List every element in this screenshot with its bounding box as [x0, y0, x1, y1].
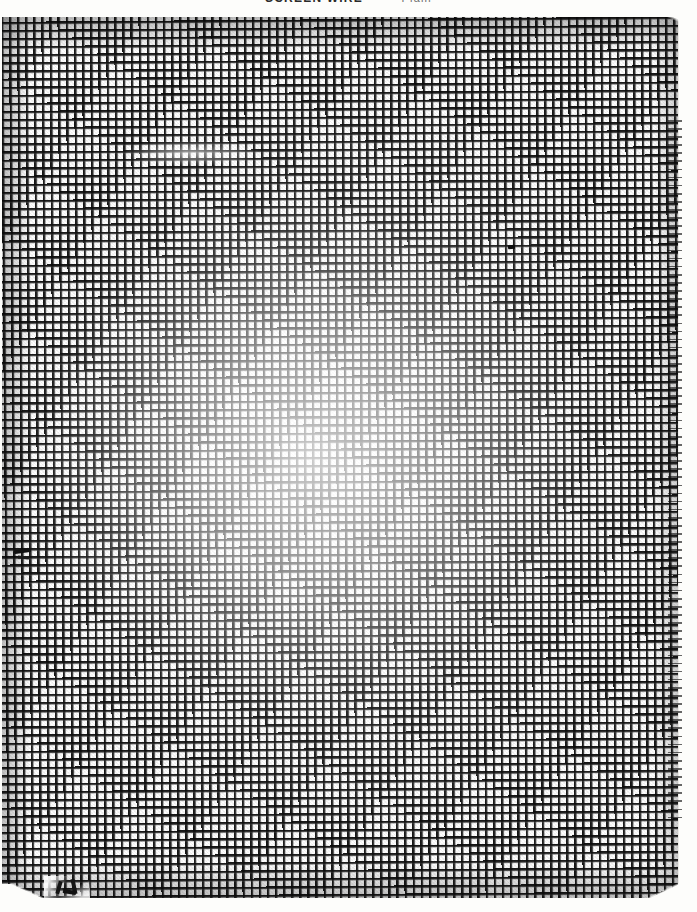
halftone-grain-overlay — [2, 17, 678, 898]
figure-caption: SCREEN WIRE Plain — [0, 0, 697, 5]
figure-caption-strip: SCREEN WIRE Plain — [0, 0, 697, 14]
page-margin-right — [679, 0, 697, 912]
mesh-rotation-wrapper — [2, 17, 678, 898]
figure-caption-subtitle: Plain — [401, 0, 431, 4]
corner-trim-bottom-right — [630, 880, 697, 912]
corner-trim-bottom-left — [0, 884, 62, 912]
figure-caption-title: SCREEN WIRE — [265, 0, 363, 5]
page-margin-left — [0, 0, 2, 912]
wire-mesh-specimen — [2, 17, 678, 898]
page-margin-bottom — [0, 898, 697, 912]
